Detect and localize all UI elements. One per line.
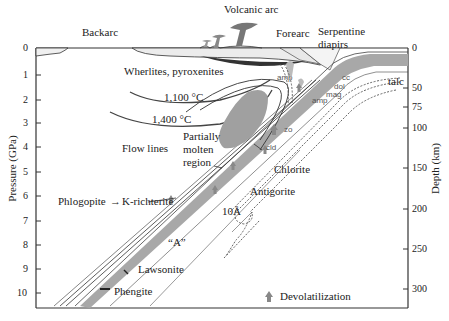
wherlites-label: Wherlites, pyroxenites — [124, 66, 224, 77]
10a-label: 10Å — [222, 206, 241, 217]
pressure-tick: 6 — [23, 191, 28, 201]
isotherm-1400-label: 1,400 °C — [152, 114, 191, 125]
phlogopite-label: Phlogopite — [58, 196, 106, 207]
pressure-tick: 3 — [23, 118, 28, 128]
pressure-tick: 8 — [23, 240, 28, 250]
isotherm-1100-label: 1,100 °C — [164, 92, 203, 103]
chlorite-label: Chlorite — [274, 164, 310, 175]
depth-tick: 0 — [412, 43, 417, 53]
depth-tick: 200 — [412, 204, 427, 214]
volcanic-arc-label: Volcanic arc — [224, 4, 278, 15]
serpentine-label: Serpentine — [318, 26, 365, 37]
pressure-tick: 2 — [23, 95, 28, 105]
pressure-tick: 9 — [23, 264, 28, 274]
cc-label: cc — [342, 74, 350, 82]
pressure-tick: 4 — [23, 142, 28, 152]
cld-label: cld — [266, 144, 276, 152]
depth-tick: 150 — [412, 163, 427, 173]
up-arrow-icon — [264, 290, 274, 302]
pressure-axis-label: Pressure (GPa) — [7, 129, 18, 209]
forearc-label: Forearc — [276, 28, 310, 39]
partially-label: Partially — [183, 131, 220, 142]
phase-a-label: “A” — [168, 237, 186, 248]
phengite-label: Phengite — [114, 286, 153, 297]
diagram-canvas — [0, 0, 449, 321]
pressure-tick: 1 — [23, 70, 28, 80]
flow-lines-label: Flow lines — [122, 143, 168, 154]
pressure-tick: 7 — [23, 216, 28, 226]
legend-label: Devolatilization — [280, 291, 351, 302]
zo-label: zo — [284, 126, 292, 134]
mag-label: mag — [326, 91, 342, 99]
reaction-arrow: → — [110, 196, 121, 207]
pressure-tick: 0 — [23, 43, 28, 53]
talc-label: talc — [388, 76, 404, 87]
depth-axis-label: Depth (km) — [430, 134, 441, 204]
k-richterite-label: K-richterite — [122, 196, 173, 207]
depth-tick: 75 — [412, 102, 422, 112]
lawsonite-label: Lawsonite — [138, 264, 184, 275]
depth-tick: 100 — [412, 123, 427, 133]
depth-tick: 50 — [412, 83, 422, 93]
amp-label: amp — [277, 74, 293, 82]
pressure-tick: 10 — [17, 288, 27, 298]
backarc-label: Backarc — [82, 27, 118, 38]
antigorite-label: Antigorite — [250, 186, 295, 197]
region-label: region — [183, 157, 211, 168]
diapirs-label: diapirs — [318, 39, 348, 50]
depth-tick: 300 — [412, 284, 427, 294]
depth-tick: 250 — [412, 244, 427, 254]
molten-label: molten — [183, 144, 214, 155]
pressure-tick: 5 — [23, 167, 28, 177]
